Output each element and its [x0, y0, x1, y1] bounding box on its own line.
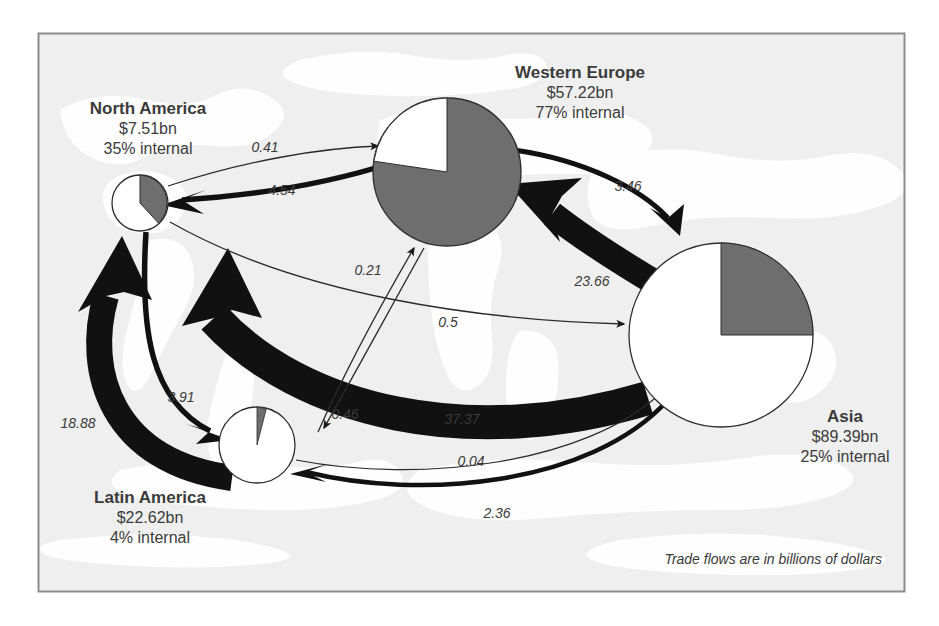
region-name: Latin America: [94, 488, 206, 507]
flow-label-la-to-asia: 0.04: [457, 453, 484, 469]
region-name: Asia: [827, 407, 863, 426]
region-internal: 77% internal: [536, 104, 625, 121]
flow-label-we-to-asia: 3.46: [614, 178, 641, 194]
region-value: $22.62bn: [117, 509, 184, 526]
flow-label-asia-to-we: 23.66: [573, 273, 609, 289]
flow-label-la-to-we: 0.21: [354, 262, 381, 278]
flow-label-asia-to-la: 2.36: [482, 505, 510, 521]
pie-western-europe: [373, 98, 521, 246]
region-internal: 35% internal: [104, 140, 193, 157]
flow-label-na-to-we: 0.41: [251, 139, 278, 155]
region-internal: 4% internal: [110, 529, 190, 546]
region-value: $7.51bn: [119, 120, 177, 137]
region-internal: 25% internal: [801, 448, 890, 465]
units-note: Trade flows are in billions of dollars: [664, 551, 882, 567]
flow-label-na-to-la: 3.91: [167, 389, 194, 405]
panel: North America $7.51bn 35% internal Weste…: [38, 33, 907, 592]
region-value: $57.22bn: [547, 84, 614, 101]
flow-label-asia-to-na: 37.37: [444, 411, 480, 427]
flow-label-la-to-na: 18.88: [60, 415, 95, 431]
figure-canvas: North America $7.51bn 35% internal Weste…: [0, 0, 939, 626]
region-name: North America: [90, 99, 207, 118]
pie-north-america: [112, 175, 168, 231]
flow-label-na-to-asia: 0.5: [438, 314, 458, 330]
pie-asia: [629, 243, 813, 427]
region-name: Western Europe: [515, 63, 645, 82]
flow-label-we-to-na: 4.54: [268, 182, 295, 198]
pie-latin-america: [219, 407, 295, 483]
region-value: $89.39bn: [812, 428, 879, 445]
flow-label-we-to-la: 0.46: [331, 406, 358, 422]
trade-flow-diagram: North America $7.51bn 35% internal Weste…: [0, 0, 939, 626]
